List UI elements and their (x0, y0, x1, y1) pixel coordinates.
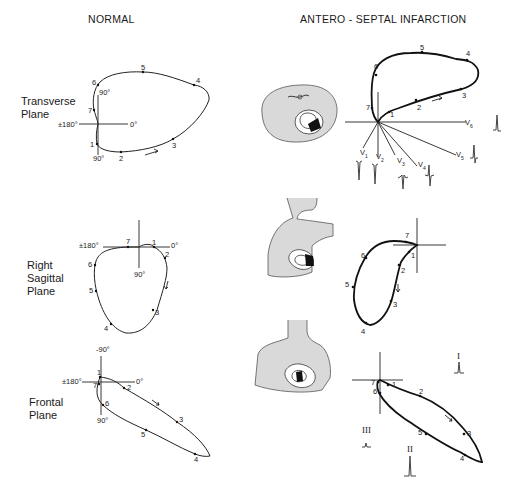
axis-label-180: ±180° (79, 241, 99, 250)
svg-text:4: 4 (466, 49, 470, 58)
svg-text:5: 5 (141, 63, 145, 72)
svg-text:6: 6 (88, 260, 92, 269)
axis-label-90: 90° (134, 270, 145, 279)
svg-text:3: 3 (155, 308, 159, 317)
svg-text:5: 5 (420, 43, 424, 52)
ecg-v3 (398, 175, 408, 189)
svg-text:1: 1 (97, 368, 101, 377)
axis-label-180: ±180° (58, 120, 78, 129)
vectorcardiogram-figure: ±180° 0° 90° 90° 1 2 3 4 5 6 7 ±180° 0° … (0, 0, 523, 495)
axis-label-0: 0° (136, 377, 143, 386)
ecg-v2 (372, 164, 378, 184)
svg-text:3: 3 (402, 161, 405, 167)
svg-text:2: 2 (127, 383, 131, 392)
svg-text:1: 1 (152, 238, 156, 247)
lead-III-label: III (362, 425, 371, 435)
svg-text:4: 4 (361, 327, 365, 336)
svg-text:1: 1 (390, 110, 394, 119)
svg-text:2: 2 (401, 266, 405, 275)
normal-transverse-loop: ±180° 0° 90° 90° 1 2 3 4 5 6 7 (58, 63, 209, 163)
infarction-transverse-loop: 1 2 3 4 5 6 7 V 6 V 5 V 1 V 2 V 3 V 4 (345, 43, 478, 171)
lead-I-label: I (457, 351, 460, 361)
axis-label-180: ±180° (62, 377, 82, 386)
svg-text:6: 6 (373, 387, 377, 396)
svg-text:7: 7 (126, 237, 130, 246)
svg-text:6: 6 (361, 251, 365, 260)
axis-label-90-bottom: 90° (93, 154, 104, 163)
svg-text:7: 7 (366, 103, 370, 112)
ecg-v4 (425, 165, 434, 186)
axis-label-neg90: -90° (96, 345, 110, 354)
svg-text:2: 2 (119, 154, 123, 163)
svg-text:6: 6 (374, 62, 378, 71)
lead-II-label: II (407, 444, 413, 454)
svg-text:2: 2 (165, 250, 169, 259)
svg-text:4: 4 (104, 324, 108, 333)
ecg-v1 (356, 161, 362, 180)
normal-frontal-loop: -90° ±180° 0° 90° 1 2 3 4 5 6 7 (62, 345, 210, 464)
infarction-sagittal-loop: 1 2 3 4 5 6 7 (345, 218, 446, 336)
svg-text:4: 4 (196, 76, 200, 85)
svg-text:3: 3 (467, 429, 471, 438)
axis-label-90-top: 90° (99, 88, 110, 97)
svg-text:4: 4 (460, 454, 464, 463)
svg-text:5: 5 (141, 430, 145, 439)
axis-label-90: 90° (97, 416, 108, 425)
infarction-frontal-loop: 1 2 3 4 5 6 7 (352, 352, 482, 463)
sagittal-body-illustration (268, 198, 333, 277)
axis-label-0: 0° (171, 241, 178, 250)
svg-text:1: 1 (365, 153, 368, 159)
svg-text:6: 6 (105, 399, 109, 408)
svg-text:2: 2 (381, 157, 384, 163)
svg-text:2: 2 (419, 387, 423, 396)
svg-text:3: 3 (462, 91, 466, 100)
ecg-lead-I (454, 362, 464, 373)
svg-text:3: 3 (172, 141, 176, 150)
svg-text:1: 1 (392, 380, 396, 389)
svg-text:7: 7 (371, 378, 375, 387)
transverse-heart-illustration (262, 85, 337, 142)
svg-text:5: 5 (345, 280, 349, 289)
svg-text:3: 3 (393, 300, 397, 309)
svg-text:6: 6 (470, 123, 473, 129)
svg-text:7: 7 (93, 381, 97, 390)
svg-text:1: 1 (90, 140, 94, 149)
ecg-v5 (470, 145, 478, 163)
svg-text:5: 5 (89, 286, 93, 295)
svg-text:5: 5 (461, 155, 464, 161)
frontal-body-illustration (255, 320, 331, 392)
svg-text:2: 2 (417, 103, 421, 112)
svg-text:4: 4 (194, 455, 198, 464)
ecg-lead-III (362, 443, 371, 447)
svg-text:7: 7 (405, 231, 409, 240)
axis-label-0: 0° (130, 120, 137, 129)
ecg-v6 (493, 115, 501, 131)
svg-text:6: 6 (92, 78, 96, 87)
normal-sagittal-loop: ±180° 0° 90° 1 2 3 4 5 6 7 (79, 220, 178, 333)
svg-text:4: 4 (423, 165, 426, 171)
svg-text:1: 1 (411, 251, 415, 260)
svg-text:3: 3 (179, 415, 183, 424)
svg-text:5: 5 (418, 428, 422, 437)
ecg-lead-II (404, 456, 416, 476)
svg-text:7: 7 (88, 106, 92, 115)
